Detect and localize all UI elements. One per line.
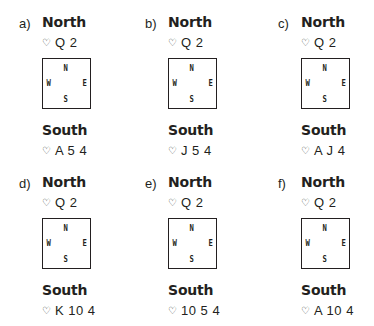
north-hand: ♡Q 2 <box>168 195 203 210</box>
deal-label: f) <box>278 176 286 191</box>
south-hand: ♡10 5 4 <box>168 303 220 318</box>
deal-label: c) <box>278 16 289 31</box>
compass-south: S <box>64 94 68 104</box>
compass-north: N <box>64 223 68 233</box>
north-title: North <box>42 14 86 30</box>
compass-east: E <box>208 238 212 248</box>
compass-box: N W E S <box>301 58 350 109</box>
heart-icon: ♡ <box>301 305 310 316</box>
compass-north: N <box>64 63 68 73</box>
north-hand: ♡Q 2 <box>168 35 203 50</box>
deal-label: e) <box>145 176 157 191</box>
compass-south: S <box>190 254 194 264</box>
south-title: South <box>301 122 346 138</box>
south-hand: ♡A 10 4 <box>301 303 354 318</box>
heart-icon: ♡ <box>168 197 177 208</box>
north-cards: Q 2 <box>55 195 77 210</box>
heart-icon: ♡ <box>301 37 310 48</box>
compass-east: E <box>341 238 345 248</box>
compass-south: S <box>190 94 194 104</box>
compass-west: W <box>306 238 310 248</box>
heart-icon: ♡ <box>168 145 177 156</box>
north-cards: Q 2 <box>181 195 203 210</box>
deal-e: e) North ♡Q 2 N W E S South ♡10 5 4 <box>145 170 265 326</box>
deal-f: f) North ♡Q 2 N W E S South ♡A 10 4 <box>278 170 374 326</box>
south-cards: A 10 4 <box>314 303 354 318</box>
compass-box: N W E S <box>168 218 217 269</box>
compass-east: E <box>82 78 86 88</box>
south-hand: ♡A 5 4 <box>42 143 87 158</box>
deal-d: d) North ♡Q 2 N W E S South ♡K 10 4 <box>19 170 139 326</box>
south-title: South <box>168 122 213 138</box>
compass-north: N <box>190 63 194 73</box>
compass-west: W <box>306 78 310 88</box>
north-title: North <box>301 14 345 30</box>
north-title: North <box>168 14 212 30</box>
heart-icon: ♡ <box>168 305 177 316</box>
compass-east: E <box>82 238 86 248</box>
north-cards: Q 2 <box>55 35 77 50</box>
deal-b: b) North ♡Q 2 N W E S South ♡J 5 4 <box>145 10 265 170</box>
north-hand: ♡Q 2 <box>301 195 336 210</box>
heart-icon: ♡ <box>301 145 310 156</box>
compass-west: W <box>173 238 177 248</box>
compass-north: N <box>190 223 194 233</box>
compass-east: E <box>341 78 345 88</box>
heart-icon: ♡ <box>42 145 51 156</box>
compass-north: N <box>323 63 327 73</box>
compass-box: N W E S <box>42 218 91 269</box>
south-cards: K 10 4 <box>55 303 96 318</box>
compass-box: N W E S <box>42 58 91 109</box>
north-cards: Q 2 <box>181 35 203 50</box>
south-hand: ♡K 10 4 <box>42 303 96 318</box>
south-cards: J 5 4 <box>181 143 212 158</box>
deal-label: a) <box>19 16 31 31</box>
south-title: South <box>168 282 213 298</box>
compass-west: W <box>47 238 51 248</box>
north-hand: ♡Q 2 <box>301 35 336 50</box>
heart-icon: ♡ <box>42 37 51 48</box>
south-hand: ♡A J 4 <box>301 143 345 158</box>
north-hand: ♡Q 2 <box>42 35 77 50</box>
compass-south: S <box>323 94 327 104</box>
south-title: South <box>42 282 87 298</box>
north-title: North <box>301 174 345 190</box>
compass-south: S <box>323 254 327 264</box>
south-title: South <box>301 282 346 298</box>
north-cards: Q 2 <box>314 195 336 210</box>
compass-south: S <box>64 254 68 264</box>
heart-icon: ♡ <box>301 197 310 208</box>
compass-west: W <box>173 78 177 88</box>
compass-box: N W E S <box>301 218 350 269</box>
heart-icon: ♡ <box>168 37 177 48</box>
north-title: North <box>168 174 212 190</box>
deal-label: b) <box>145 16 157 31</box>
compass-box: N W E S <box>168 58 217 109</box>
south-hand: ♡J 5 4 <box>168 143 212 158</box>
compass-east: E <box>208 78 212 88</box>
south-cards: A 5 4 <box>55 143 87 158</box>
compass-west: W <box>47 78 51 88</box>
heart-icon: ♡ <box>42 197 51 208</box>
deal-c: c) North ♡Q 2 N W E S South ♡A J 4 <box>278 10 374 170</box>
deal-label: d) <box>19 176 31 191</box>
south-cards: 10 5 4 <box>181 303 220 318</box>
heart-icon: ♡ <box>42 305 51 316</box>
north-hand: ♡Q 2 <box>42 195 77 210</box>
south-title: South <box>42 122 87 138</box>
north-cards: Q 2 <box>314 35 336 50</box>
south-cards: A J 4 <box>314 143 345 158</box>
north-title: North <box>42 174 86 190</box>
deal-a: a) North ♡Q 2 N W E S South ♡A 5 4 <box>19 10 139 170</box>
compass-north: N <box>323 223 327 233</box>
